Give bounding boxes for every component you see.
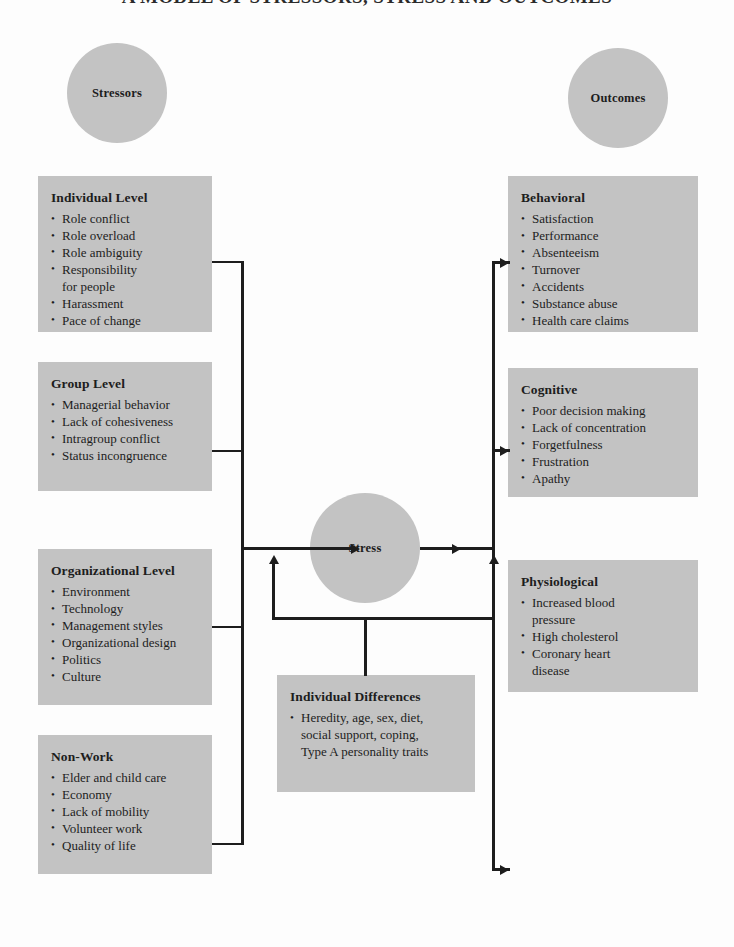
list-item: Health care claims [521,313,686,330]
list-item: Responsibility for people [51,262,200,296]
stressors-vertical-bus [241,261,244,845]
list-item: Absenteeism [521,245,686,262]
list-item: Substance abuse [521,296,686,313]
box-item-list: Poor decision making Lack of concentrati… [521,403,686,487]
list-item: Frustration [521,454,686,471]
list-item: Intragroup conflict [51,431,200,448]
figure-canvas: A MODEL OF STRESSORS, STRESS AND OUTCOME… [0,0,734,947]
outcome-box-physiological: Physiological Increased blood pressure H… [508,560,698,692]
box-title: Individual Level [51,190,200,206]
connector-group-level-stub [212,450,243,452]
box-title: Behavioral [521,190,686,206]
connector-to-cognitive-arrowhead [500,446,509,456]
moderator-box-individual-differences: Individual Differences Heredity, age, se… [277,675,475,792]
list-item: Coronary heart disease [521,646,686,680]
list-item: Harassment [51,296,200,313]
stressor-box-organizational-level: Organizational Level Environment Technol… [38,549,212,705]
connector-individual-level-stub [212,261,243,263]
figure-title: A MODEL OF STRESSORS, STRESS AND OUTCOME… [0,0,734,8]
list-item: Lack of cohesiveness [51,414,200,431]
list-item: Lack of concentration [521,420,686,437]
list-item: Increased blood pressure [521,595,686,629]
box-item-list: Managerial behavior Lack of cohesiveness… [51,397,200,465]
list-item: Role conflict [51,211,200,228]
connector-to-physiological-arrowhead [500,865,509,875]
connector-organizational-level-stub [212,626,243,628]
list-item: Volunteer work [51,821,200,838]
list-item: Pace of change [51,313,200,330]
outcome-box-behavioral: Behavioral Satisfaction Performance Abse… [508,176,698,332]
list-item: Poor decision making [521,403,686,420]
outcomes-header-label: Outcomes [590,91,645,106]
list-item: Environment [51,584,200,601]
list-item: Accidents [521,279,686,296]
list-item: Management styles [51,618,200,635]
connector-moderator-left-arrowhead [269,555,279,564]
list-item: Elder and child care [51,770,200,787]
list-item: Culture [51,669,200,686]
list-item: Performance [521,228,686,245]
box-item-list: Increased blood pressure High cholestero… [521,595,686,679]
connector-moderator-crossbar [272,617,494,620]
outcomes-header-circle: Outcomes [568,48,668,148]
list-item: Quality of life [51,838,200,855]
box-title: Cognitive [521,382,686,398]
box-title: Physiological [521,574,686,590]
stressor-box-non-work: Non-Work Elder and child care Economy La… [38,735,212,874]
connector-moderator-left-riser [272,564,275,619]
box-title: Individual Differences [290,689,463,705]
outcome-box-cognitive: Cognitive Poor decision making Lack of c… [508,368,698,497]
list-item: Economy [51,787,200,804]
list-item: Heredity, age, sex, diet, social support… [290,710,463,761]
stressors-header-label: Stressors [92,86,142,101]
box-item-list: Satisfaction Performance Absenteeism Tur… [521,211,686,329]
box-item-list: Heredity, age, sex, diet, social support… [290,710,463,761]
stressor-box-group-level: Group Level Managerial behavior Lack of … [38,362,212,491]
box-title: Organizational Level [51,563,200,579]
list-item: Organizational design [51,635,200,652]
box-title: Non-Work [51,749,200,765]
connector-stressors-to-stress-arrowhead [351,544,360,554]
connector-stress-to-outcomes-arrowhead [452,544,461,554]
list-item: Satisfaction [521,211,686,228]
connector-to-behavioral-arrowhead [500,258,509,268]
connector-stressors-to-stress-line [241,547,353,550]
list-item: Apathy [521,471,686,488]
list-item: Lack of mobility [51,804,200,821]
box-item-list: Environment Technology Management styles… [51,584,200,685]
stressors-header-circle: Stressors [67,43,167,143]
list-item: Role overload [51,228,200,245]
connector-moderator-stem [364,618,367,676]
list-item: Role ambiguity [51,245,200,262]
list-item: High cholesterol [521,629,686,646]
box-item-list: Role conflict Role overload Role ambigui… [51,211,200,329]
stressor-box-individual-level: Individual Level Role conflict Role over… [38,176,212,332]
list-item: Managerial behavior [51,397,200,414]
list-item: Forgetfulness [521,437,686,454]
box-title: Group Level [51,376,200,392]
outcomes-vertical-bus [492,261,495,870]
list-item: Politics [51,652,200,669]
list-item: Turnover [521,262,686,279]
list-item: Technology [51,601,200,618]
box-item-list: Elder and child care Economy Lack of mob… [51,770,200,854]
connector-non-work-stub [212,843,243,845]
list-item: Status incongruence [51,448,200,465]
